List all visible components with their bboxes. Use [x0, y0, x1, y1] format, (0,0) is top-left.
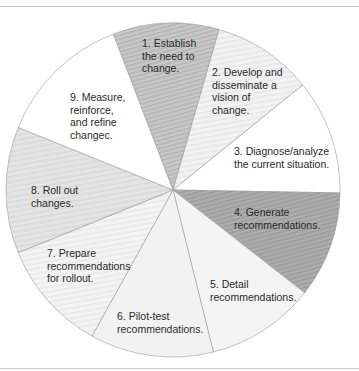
segment-7-label: 7. Prepare recommendations for rollout.: [47, 247, 130, 285]
segment-6-label: 6. Pilot-test recommendations.: [117, 310, 203, 335]
segment-9-label: 9. Measure, reinforce, and refine change…: [70, 91, 125, 141]
segment-5-label: 5. Detail recommendations.: [210, 278, 296, 303]
segment-8-label: 8. Roll out changes.: [31, 184, 78, 209]
segment-3-label: 3. Diagnose/analyze the current situatio…: [234, 145, 329, 170]
segment-2-label: 2. Develop and disseminate a vision of c…: [212, 66, 283, 116]
segment-1-label: 1. Establish the need to change.: [142, 37, 196, 75]
segment-4-label: 4. Generate recommendations.: [234, 206, 320, 231]
